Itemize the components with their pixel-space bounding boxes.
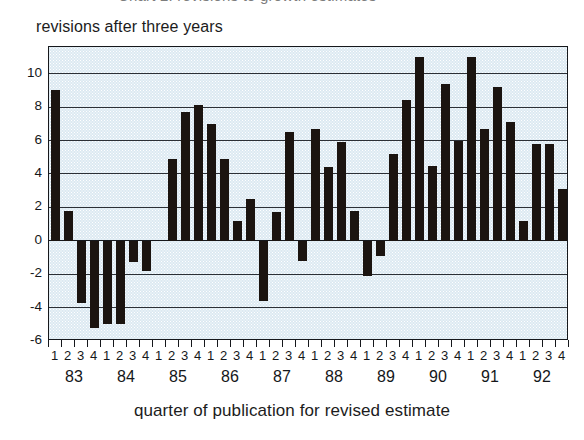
year-label: 85 bbox=[158, 367, 198, 386]
y-axis-label: 10 bbox=[2, 66, 42, 80]
x-axis-ticks bbox=[48, 340, 568, 347]
x-axis-tick bbox=[568, 340, 569, 347]
x-axis-tick bbox=[503, 340, 504, 347]
x-axis-tick bbox=[412, 340, 413, 347]
bar bbox=[441, 84, 449, 241]
bar bbox=[285, 132, 293, 241]
x-axis-tick bbox=[373, 340, 374, 347]
x-axis-tick bbox=[113, 340, 114, 347]
bar bbox=[389, 154, 397, 241]
x-axis-tick bbox=[217, 340, 218, 347]
x-axis-tick bbox=[490, 340, 491, 347]
bar bbox=[337, 142, 345, 241]
x-axis-caption: quarter of publication for revised estim… bbox=[0, 401, 584, 421]
x-axis-tick bbox=[295, 340, 296, 347]
x-axis-tick bbox=[386, 340, 387, 347]
bar bbox=[90, 241, 98, 328]
x-axis-tick bbox=[529, 340, 530, 347]
x-axis-tick bbox=[477, 340, 478, 347]
x-axis-tick bbox=[516, 340, 517, 347]
x-axis-tick bbox=[152, 340, 153, 347]
bar bbox=[519, 221, 527, 241]
plot-area bbox=[48, 46, 568, 340]
x-axis-tick bbox=[347, 340, 348, 347]
quarter-label: 2 bbox=[425, 348, 438, 364]
quarter-label: 2 bbox=[217, 348, 230, 364]
x-axis-tick bbox=[269, 340, 270, 347]
bar bbox=[532, 144, 540, 241]
bar bbox=[376, 241, 384, 256]
bar bbox=[246, 199, 254, 241]
x-axis-tick bbox=[321, 340, 322, 347]
quarter-label: 4 bbox=[503, 348, 516, 364]
x-axis-tick bbox=[555, 340, 556, 347]
quarter-label: 2 bbox=[477, 348, 490, 364]
x-axis-tick bbox=[399, 340, 400, 347]
x-axis-tick bbox=[360, 340, 361, 347]
quarter-label: 1 bbox=[48, 348, 61, 364]
bar bbox=[480, 129, 488, 241]
year-label: 87 bbox=[262, 367, 302, 386]
quarter-label: 1 bbox=[152, 348, 165, 364]
bar bbox=[311, 129, 319, 241]
gridline bbox=[49, 207, 567, 208]
bar bbox=[558, 189, 566, 241]
bar bbox=[454, 141, 462, 241]
quarter-label: 2 bbox=[269, 348, 282, 364]
quarter-label: 4 bbox=[243, 348, 256, 364]
y-axis-label: 8 bbox=[2, 99, 42, 113]
bar bbox=[233, 221, 241, 241]
x-axis-tick bbox=[308, 340, 309, 347]
bar bbox=[103, 241, 111, 325]
gridline-zero bbox=[49, 240, 567, 241]
x-axis-tick bbox=[451, 340, 452, 347]
x-axis-tick bbox=[425, 340, 426, 347]
bar bbox=[402, 100, 410, 240]
quarter-label: 2 bbox=[321, 348, 334, 364]
quarter-label: 4 bbox=[399, 348, 412, 364]
x-axis-tick bbox=[87, 340, 88, 347]
gridline bbox=[49, 107, 567, 108]
cropped-top-caption: Chart 2: revisions to growth estimates bbox=[0, 0, 584, 11]
quarter-label: 1 bbox=[100, 348, 113, 364]
quarter-label: 1 bbox=[516, 348, 529, 364]
bar bbox=[129, 241, 137, 263]
bar bbox=[363, 241, 371, 276]
bar bbox=[298, 241, 306, 261]
year-label-row: 83848586878889909192 bbox=[48, 367, 568, 389]
y-axis-label: -2 bbox=[2, 266, 42, 280]
quarter-label: 4 bbox=[139, 348, 152, 364]
x-axis-tick bbox=[139, 340, 140, 347]
y-axis-label: 0 bbox=[2, 233, 42, 247]
quarter-label: 4 bbox=[87, 348, 100, 364]
quarter-label: 4 bbox=[191, 348, 204, 364]
quarter-label: 3 bbox=[490, 348, 503, 364]
bar bbox=[350, 211, 358, 241]
gridline bbox=[49, 307, 567, 308]
bar bbox=[142, 241, 150, 271]
quarter-label: 2 bbox=[529, 348, 542, 364]
bar bbox=[116, 241, 124, 325]
year-label: 86 bbox=[210, 367, 250, 386]
bar bbox=[77, 241, 85, 303]
y-axis-label: -4 bbox=[2, 300, 42, 314]
x-axis-tick bbox=[191, 340, 192, 347]
quarter-label: 3 bbox=[126, 348, 139, 364]
bar bbox=[51, 90, 59, 240]
quarter-label: 3 bbox=[282, 348, 295, 364]
gridline bbox=[49, 274, 567, 275]
chart-title: revisions after three years bbox=[36, 18, 223, 36]
x-axis-tick bbox=[126, 340, 127, 347]
quarter-label: 4 bbox=[451, 348, 464, 364]
quarter-label: 1 bbox=[204, 348, 217, 364]
x-axis-tick bbox=[334, 340, 335, 347]
quarter-label: 3 bbox=[178, 348, 191, 364]
bar bbox=[181, 112, 189, 241]
bar bbox=[428, 166, 436, 241]
quarter-label: 3 bbox=[334, 348, 347, 364]
quarter-label: 3 bbox=[230, 348, 243, 364]
quarter-label: 3 bbox=[438, 348, 451, 364]
x-axis-tick bbox=[178, 340, 179, 347]
year-label: 91 bbox=[470, 367, 510, 386]
bar bbox=[324, 167, 332, 241]
